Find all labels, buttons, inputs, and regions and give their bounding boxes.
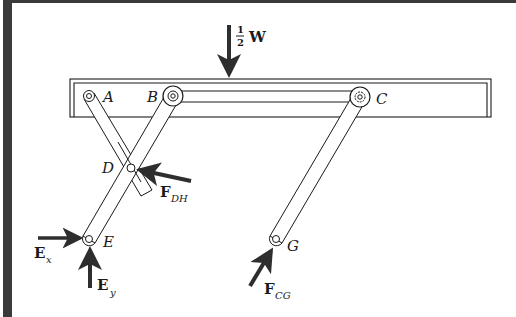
pivot-d (127, 164, 135, 172)
f-dh-label: F DH (160, 183, 188, 204)
label-b: B (146, 88, 158, 106)
frame-top-border (3, 0, 516, 3)
svg-text:1: 1 (237, 24, 244, 35)
pivot-a (84, 91, 95, 102)
svg-text:2: 2 (237, 37, 244, 48)
f-cg-label: F CG (264, 280, 291, 301)
pivot-e (86, 236, 93, 243)
mechanism-diagram: A B C D E G 1 2 W F DH E x E y F CG (0, 0, 516, 317)
pivot-g (273, 236, 280, 243)
label-e: E (102, 233, 114, 251)
svg-text:F: F (160, 183, 171, 201)
pivot-c (350, 87, 370, 107)
svg-text:F: F (264, 280, 275, 298)
pivot-b (163, 86, 183, 106)
bar-bc (180, 91, 355, 102)
frame-left-border (3, 0, 12, 317)
e-y-label: E y (97, 276, 116, 298)
svg-text:E: E (34, 244, 45, 262)
link-cg (269, 93, 366, 246)
svg-text:y: y (109, 287, 116, 298)
label-g: G (287, 237, 299, 255)
svg-text:x: x (46, 254, 52, 265)
f-dh-arrow-icon (140, 170, 191, 181)
svg-text:DH: DH (170, 193, 188, 204)
svg-text:W: W (248, 28, 267, 46)
label-c: C (376, 90, 388, 108)
label-a: A (101, 88, 114, 106)
svg-text:E: E (97, 276, 108, 294)
e-x-label: E x (34, 244, 52, 265)
label-d: D (101, 159, 114, 177)
svg-text:CG: CG (275, 290, 291, 301)
weight-label: 1 2 W (236, 24, 267, 48)
